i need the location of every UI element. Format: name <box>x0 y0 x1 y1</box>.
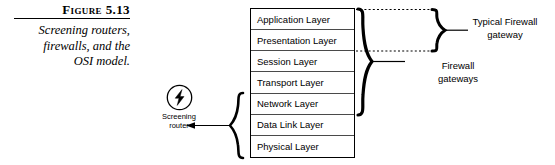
osi-layer-label: Data Link Layer <box>257 119 324 130</box>
firewall-gateways-label-line-2: gateways <box>412 73 504 86</box>
osi-layer-session: Session Layer <box>251 51 354 72</box>
screening-router-group: Screening router <box>148 84 210 130</box>
firewall-gateways-brace <box>358 9 372 115</box>
figure-5-13: Figure 5.13 Screening routers, firewalls… <box>0 0 555 165</box>
caption-line-1: Screening routers, <box>14 23 130 39</box>
firewall-gateways-label-line-1: Firewall <box>412 60 504 73</box>
screening-router-label: Screening router <box>148 112 210 130</box>
figure-caption-text: Screening routers, firewalls, and the OS… <box>14 23 130 70</box>
osi-layer-application: Application Layer <box>251 9 354 30</box>
osi-layer-physical: Physical Layer <box>251 136 354 157</box>
screening-router-label-line-1: Screening <box>148 112 210 121</box>
osi-layer-transport: Transport Layer <box>251 72 354 93</box>
osi-layer-label: Transport Layer <box>257 77 324 88</box>
osi-layer-label: Physical Layer <box>257 141 319 152</box>
osi-layer-data-link: Data Link Layer <box>251 115 354 136</box>
caption-line-3: OSI model. <box>14 54 130 70</box>
screening-router-brace <box>230 93 243 158</box>
osi-layer-label: Presentation Layer <box>257 35 337 46</box>
typical-firewall-gateway-label: Typical Firewall gateway <box>462 16 548 41</box>
figure-number: Figure 5.13 <box>14 2 130 17</box>
osi-layer-presentation: Presentation Layer <box>251 30 354 51</box>
osi-layer-label: Session Layer <box>257 56 317 67</box>
caption-divider <box>14 18 130 19</box>
caption-line-2: firewalls, and the <box>14 39 130 55</box>
osi-layer-label: Network Layer <box>257 98 318 109</box>
typical-firewall-brace <box>432 10 445 52</box>
lightning-bolt-circle-icon <box>166 84 193 111</box>
typical-firewall-label-line-2: gateway <box>462 29 548 42</box>
typical-firewall-label-line-1: Typical Firewall <box>462 16 548 29</box>
screening-router-label-line-2: router <box>148 121 210 130</box>
osi-layer-stack: Application Layer Presentation Layer Ses… <box>250 8 355 158</box>
figure-caption-block: Figure 5.13 Screening routers, firewalls… <box>14 2 130 70</box>
firewall-gateways-label: Firewall gateways <box>412 60 504 85</box>
osi-layer-label: Application Layer <box>257 14 330 25</box>
osi-layer-network: Network Layer <box>251 94 354 115</box>
